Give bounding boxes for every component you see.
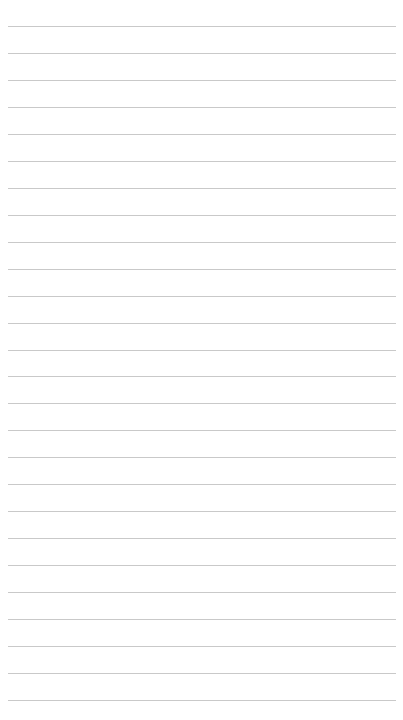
ruled-line: [8, 484, 396, 485]
ruled-line: [8, 592, 396, 593]
ruled-line: [8, 296, 396, 297]
ruled-line: [8, 457, 396, 458]
ruled-line: [8, 242, 396, 243]
ruled-line: [8, 161, 396, 162]
ruled-line: [8, 565, 396, 566]
ruled-line: [8, 646, 396, 647]
ruled-line: [8, 350, 396, 351]
ruled-line: [8, 403, 396, 404]
ruled-line: [8, 107, 396, 108]
ruled-line: [8, 511, 396, 512]
ruled-line: [8, 430, 396, 431]
ruled-line: [8, 269, 396, 270]
ruled-line: [8, 673, 396, 674]
ruled-line: [8, 188, 396, 189]
ruled-line: [8, 134, 396, 135]
ruled-line: [8, 538, 396, 539]
ruled-line: [8, 215, 396, 216]
ruled-line: [8, 700, 396, 701]
ruled-line: [8, 80, 396, 81]
ruled-line: [8, 323, 396, 324]
ruled-line: [8, 26, 396, 27]
ruled-line: [8, 53, 396, 54]
lined-paper-page: [0, 0, 403, 720]
ruled-line: [8, 376, 396, 377]
ruled-line: [8, 619, 396, 620]
